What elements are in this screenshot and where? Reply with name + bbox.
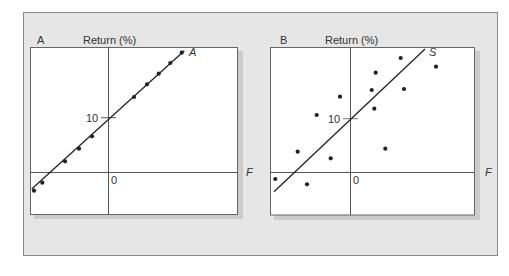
panel-b: B Return (%) 10 0 F S xyxy=(271,34,494,220)
data-point xyxy=(434,65,438,69)
panel-b-y-axis-title: Return (%) xyxy=(325,34,378,46)
data-point xyxy=(132,95,136,99)
panel-a-origin-label: 0 xyxy=(111,174,117,186)
panel-b-label: B xyxy=(280,34,287,46)
panel-b-line-label: S xyxy=(429,46,437,58)
data-point xyxy=(32,189,36,193)
data-point xyxy=(145,82,149,86)
data-point xyxy=(180,51,184,55)
data-point xyxy=(370,88,374,92)
data-point xyxy=(329,156,333,160)
data-point xyxy=(273,177,277,181)
data-point xyxy=(157,72,161,76)
panel-a-tick-10-label: 10 xyxy=(86,112,98,124)
data-point xyxy=(399,56,403,60)
data-point xyxy=(402,87,406,91)
data-point xyxy=(77,147,81,151)
data-point xyxy=(305,182,309,186)
panel-a-y-axis-title: Return (%) xyxy=(83,34,136,46)
panel-a-line-label: A xyxy=(188,46,196,58)
data-point xyxy=(383,147,387,151)
data-point xyxy=(168,61,172,65)
panel-a-plot-area xyxy=(31,48,238,215)
panel-b-origin-label: 0 xyxy=(353,174,359,186)
panel-b-plot-area xyxy=(271,48,475,216)
figure: A Return (%) 10 0 F A B Return xyxy=(0,0,509,276)
data-point xyxy=(63,159,67,163)
panel-b-tick-10-label: 10 xyxy=(328,113,340,125)
data-point xyxy=(296,150,300,154)
data-point xyxy=(338,95,342,99)
data-point xyxy=(90,134,94,138)
data-point xyxy=(315,113,319,117)
panel-a: A Return (%) 10 0 F A xyxy=(31,34,255,219)
data-point xyxy=(374,71,378,75)
data-point xyxy=(372,107,376,111)
panel-a-label: A xyxy=(37,34,45,46)
data-point xyxy=(40,181,44,185)
